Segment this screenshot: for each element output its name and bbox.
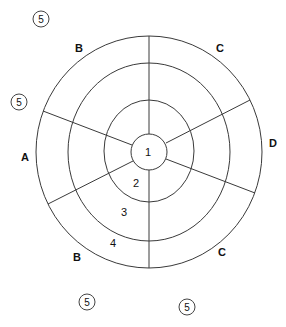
marker-label: 5 bbox=[16, 97, 22, 108]
outer-marker-top-left: 5 bbox=[33, 11, 49, 27]
sector-label-c-bottom: C bbox=[218, 246, 226, 258]
marker-label: 5 bbox=[184, 302, 190, 313]
ring-label-2: 2 bbox=[133, 177, 139, 189]
spoke-lower-left bbox=[48, 161, 133, 204]
sector-label-a: A bbox=[21, 151, 29, 163]
outer-marker-left: 5 bbox=[11, 94, 27, 110]
marker-label: 5 bbox=[84, 297, 90, 308]
sector-label-c-top: C bbox=[216, 42, 224, 54]
sector-label-b-bottom: B bbox=[73, 251, 81, 263]
spoke-lower-right bbox=[166, 159, 255, 193]
sector-label-d: D bbox=[269, 137, 277, 149]
spoke-upper-left bbox=[43, 111, 132, 145]
ring-label-4: 4 bbox=[110, 237, 116, 249]
sector-label-b-top: B bbox=[75, 42, 83, 54]
spoke-upper-right bbox=[166, 100, 250, 143]
ring-label-3: 3 bbox=[121, 206, 127, 218]
marker-label: 5 bbox=[38, 14, 44, 25]
outer-marker-bottom-right: 5 bbox=[179, 299, 195, 315]
ring-label-1: 1 bbox=[145, 146, 151, 158]
zone-diagram: 1 2 3 4 B C D C B A 5 5 5 5 bbox=[0, 0, 286, 327]
outer-marker-bottom-left: 5 bbox=[79, 294, 95, 310]
